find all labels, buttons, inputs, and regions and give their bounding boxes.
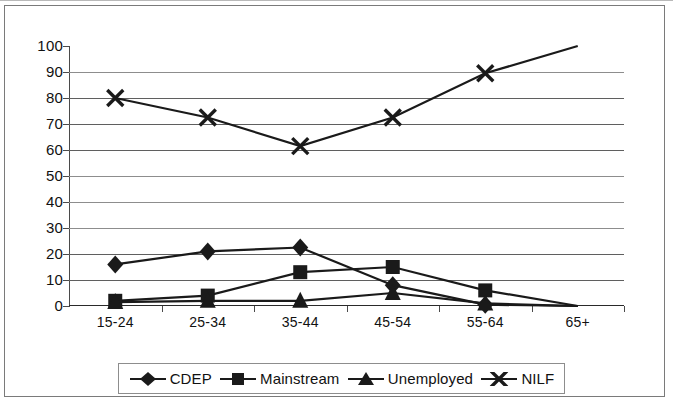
x-tick-label: 25-34 [189, 314, 226, 330]
plot-area [69, 46, 624, 306]
diamond-marker-icon [200, 242, 216, 260]
x-tick-label: 45-54 [374, 314, 411, 330]
cross-marker-icon [385, 110, 401, 126]
legend-item[interactable]: Unemployed [347, 371, 473, 386]
diamond-marker-icon [140, 372, 156, 386]
square-marker-icon [232, 373, 244, 385]
diamond-marker-icon [129, 372, 167, 386]
square-marker-icon [293, 265, 307, 279]
x-tick-label: 55-64 [467, 314, 504, 330]
legend-label: Mainstream [260, 371, 339, 386]
cross-marker-icon [200, 110, 216, 126]
x-tick-label: 35-44 [282, 314, 319, 330]
y-tick-label: 20 [46, 246, 63, 261]
y-tick-label: 100 [37, 38, 63, 53]
legend-item[interactable]: Mainstream [219, 371, 339, 386]
y-tick-label: 10 [46, 272, 63, 287]
legend-item[interactable]: CDEP [129, 371, 212, 386]
square-marker-icon [386, 260, 400, 274]
diamond-marker-icon [292, 239, 308, 257]
y-tick-label: 90 [46, 64, 63, 79]
y-tick-label: 40 [46, 194, 63, 209]
y-tick-label: 70 [46, 116, 63, 131]
legend-label: CDEP [170, 371, 212, 386]
diamond-marker-icon [107, 255, 123, 273]
cross-marker-icon [480, 372, 518, 386]
y-tick-label: 30 [46, 220, 63, 235]
x-tick-label: 65+ [566, 314, 590, 330]
y-tick-label: 60 [46, 142, 63, 157]
legend-label: NILF [521, 371, 554, 386]
legend-label: Unemployed [388, 371, 473, 386]
page-top-rule [0, 0, 673, 1]
x-axis-labels: 15-2425-3435-4445-5455-6465+ [69, 314, 624, 336]
y-tick-label: 80 [46, 90, 63, 105]
y-tick-label: 0 [54, 298, 63, 313]
cross-marker-icon [107, 90, 123, 106]
chart-frame: 0102030405060708090100 15-2425-3435-4445… [4, 5, 665, 397]
chart-legend: CDEPMainstreamUnemployedNILF [118, 363, 565, 394]
cross-marker-icon [292, 138, 308, 154]
y-axis-labels: 0102030405060708090100 [5, 46, 63, 306]
x-tick-mark [624, 306, 625, 312]
x-tick-label: 15-24 [97, 314, 134, 330]
cross-marker-icon [477, 65, 493, 81]
series-line [115, 46, 578, 146]
legend-item[interactable]: NILF [480, 371, 554, 386]
triangle-marker-icon [347, 372, 385, 386]
square-marker-icon [219, 372, 257, 386]
y-tick-label: 50 [46, 168, 63, 183]
series-lines [69, 46, 624, 307]
